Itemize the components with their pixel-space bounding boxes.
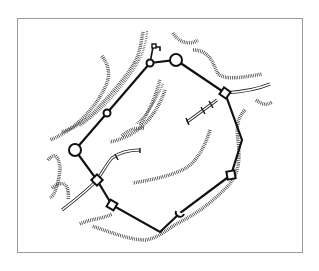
gate-tower-n	[152, 44, 156, 48]
round-tower-nw	[104, 110, 111, 117]
corner-tower-se	[226, 170, 235, 179]
figure-frame	[18, 19, 303, 253]
site-plan-figure	[0, 0, 319, 271]
round-tower	[147, 60, 154, 67]
site-plan-svg	[0, 0, 319, 271]
large-round-tower-w	[69, 144, 81, 156]
large-round-tower	[170, 54, 182, 66]
